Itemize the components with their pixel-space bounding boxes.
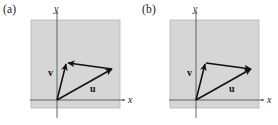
panel-b: (b) x y v u [139, 0, 278, 125]
panel-b-plot: x y v u [139, 0, 278, 125]
vector-u-label: u [90, 83, 96, 94]
x-axis-label: x [127, 94, 133, 105]
vector-figure: (a) x y v [0, 0, 278, 125]
vector-u-label: u [229, 83, 235, 94]
vector-v-label: v [187, 67, 192, 78]
vector-v-label: v [48, 67, 53, 78]
x-axis-label: x [266, 94, 272, 105]
y-axis-label: y [192, 3, 198, 14]
y-axis-label: y [53, 3, 59, 14]
panel-a-plot: x y v u [0, 0, 139, 125]
panel-a: (a) x y v [0, 0, 139, 125]
